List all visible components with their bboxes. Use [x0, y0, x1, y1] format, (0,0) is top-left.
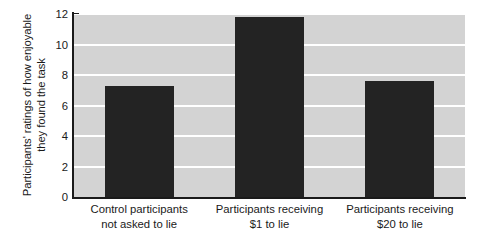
x-category-label-line: not asked to lie: [74, 217, 204, 232]
bar: [105, 86, 174, 197]
y-tick-label: 10: [12, 39, 68, 50]
y-tick-label: 0: [12, 192, 68, 203]
x-category-label: Participants receiving$20 to lie: [335, 202, 465, 232]
y-tick-label: 2: [12, 161, 68, 172]
y-axis-line: [72, 12, 74, 199]
x-category-label-line: Control participants: [74, 202, 204, 217]
y-tick-label: 6: [12, 100, 68, 111]
x-category-label: Participants receiving$1 to lie: [204, 202, 334, 232]
x-axis-line: [72, 197, 466, 199]
y-tick-label: 8: [12, 70, 68, 81]
bar: [235, 17, 304, 197]
y-tick-label: 4: [12, 131, 68, 142]
x-category-label-line: Participants receiving: [204, 202, 334, 217]
x-category-label-line: $1 to lie: [204, 217, 334, 232]
x-category-label-line: Participants receiving: [335, 202, 465, 217]
x-axis-category-labels: Control participantsnot asked to liePart…: [74, 202, 465, 241]
bar: [365, 81, 434, 197]
x-category-label-line: $20 to lie: [335, 217, 465, 232]
y-tick-label: 12: [12, 9, 68, 20]
y-axis-ticks: 024681012: [8, 0, 68, 241]
bar-chart: Participants' ratings of how enjoyable t…: [0, 0, 481, 241]
gridline: [74, 14, 465, 15]
plot-area: [74, 14, 465, 197]
x-category-label: Control participantsnot asked to lie: [74, 202, 204, 232]
